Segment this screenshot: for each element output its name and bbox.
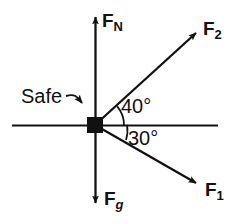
force-label-fn: FN bbox=[102, 11, 123, 33]
force-diagram: FN F2 F1 Fg 40° 30° Safe bbox=[0, 0, 232, 224]
safe-label: Safe bbox=[21, 86, 62, 106]
force-label-fn-text: F bbox=[102, 10, 114, 31]
angle-label-30: 30° bbox=[128, 128, 158, 148]
force-label-f2-subscript: 2 bbox=[215, 27, 222, 42]
force-label-fg-subscript: g bbox=[116, 197, 124, 212]
force-label-f2: F2 bbox=[203, 19, 222, 41]
force-label-f2-text: F bbox=[203, 18, 215, 39]
force-label-fg: Fg bbox=[104, 189, 124, 211]
force-label-fn-subscript: N bbox=[114, 19, 123, 34]
force-label-f1: F1 bbox=[205, 180, 224, 202]
safe-marker bbox=[88, 118, 103, 133]
force-label-fg-text: F bbox=[104, 188, 116, 209]
angle-label-40: 40° bbox=[121, 96, 151, 116]
safe-leader-line bbox=[66, 95, 82, 103]
force-label-f1-subscript: 1 bbox=[217, 188, 224, 203]
force-label-f1-text: F bbox=[205, 179, 217, 200]
